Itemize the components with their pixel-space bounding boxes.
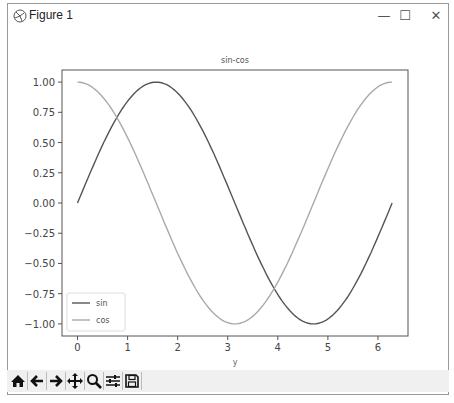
- y-tick-label: 1.00: [33, 77, 55, 88]
- x-axis-label: y: [233, 358, 238, 367]
- chart-canvas[interactable]: sin-cos01234561.000.750.500.250.00−0.25−…: [0, 0, 454, 403]
- configure-subplots-button[interactable]: [104, 372, 123, 390]
- home-button[interactable]: [9, 372, 28, 390]
- legend-label-cos: cos: [96, 316, 109, 325]
- x-tick-label: 1: [124, 342, 130, 353]
- series-line-sin: [78, 82, 393, 324]
- save-icon: [124, 373, 140, 389]
- y-tick-label: 0.25: [33, 168, 55, 179]
- y-tick-label: 0.50: [33, 138, 55, 149]
- home-icon: [10, 373, 26, 389]
- x-tick-label: 3: [225, 342, 231, 353]
- navigation-toolbar: [7, 370, 449, 392]
- y-tick-label: −1.00: [24, 319, 55, 330]
- y-tick-label: 0.00: [33, 198, 55, 209]
- forward-icon: [48, 373, 64, 389]
- save-button[interactable]: [123, 372, 142, 390]
- x-tick-label: 4: [275, 342, 281, 353]
- y-tick-label: −0.25: [24, 228, 55, 239]
- zoom-button[interactable]: [85, 372, 104, 390]
- x-tick-label: 6: [375, 342, 381, 353]
- y-tick-label: −0.75: [24, 289, 55, 300]
- legend-label-sin: sin: [96, 299, 107, 308]
- chart-title: sin-cos: [221, 56, 249, 65]
- x-tick-label: 2: [174, 342, 180, 353]
- pan-button[interactable]: [66, 372, 85, 390]
- back-icon: [29, 373, 45, 389]
- configure-subplots-icon: [105, 373, 121, 389]
- pan-icon: [67, 373, 83, 389]
- y-tick-label: 0.75: [33, 107, 55, 118]
- zoom-icon: [86, 373, 102, 389]
- forward-button[interactable]: [47, 372, 66, 390]
- x-tick-label: 5: [325, 342, 331, 353]
- y-tick-label: −0.50: [24, 258, 55, 269]
- back-button[interactable]: [28, 372, 47, 390]
- x-tick-label: 0: [74, 342, 80, 353]
